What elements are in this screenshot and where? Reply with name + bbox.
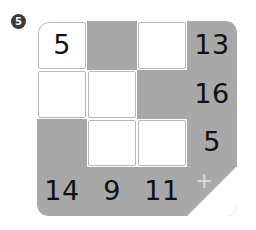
plus-icon: + xyxy=(195,170,214,192)
cell-value: 5 xyxy=(203,128,221,155)
puzzle-root: 5 51316514911+ xyxy=(0,0,256,230)
addition-grid: 51316514911+ xyxy=(37,21,237,216)
grid-cell-r4c2: 9 xyxy=(87,167,137,216)
grid-cell-r3c3[interactable] xyxy=(138,120,186,167)
grid-cell-r1c2[interactable] xyxy=(87,21,137,70)
grid-cell-r3c1[interactable] xyxy=(37,119,87,168)
grid-operator-cell: + xyxy=(187,167,237,216)
grid-cell-r1c4: 13 xyxy=(187,21,237,70)
grid-cell-r3c2[interactable] xyxy=(88,120,136,167)
grid-cell-r2c2[interactable] xyxy=(88,71,136,118)
cell-value: 9 xyxy=(103,177,121,204)
grid-cell-r3c4: 5 xyxy=(187,119,237,168)
problem-number-badge: 5 xyxy=(11,14,26,29)
cell-value: 5 xyxy=(53,31,71,58)
grid-cell-r4c3: 11 xyxy=(137,167,187,216)
cell-value: 16 xyxy=(194,80,229,107)
grid-cell-r2c3[interactable] xyxy=(137,70,187,119)
cell-value: 11 xyxy=(144,177,179,204)
grid-cell-r1c1: 5 xyxy=(38,22,86,69)
cell-value: 14 xyxy=(44,177,79,204)
grid-cell-r2c4: 16 xyxy=(187,70,237,119)
cell-value: 13 xyxy=(194,31,229,58)
grid-cell-r1c3[interactable] xyxy=(138,22,186,69)
grid-container: 51316514911+ xyxy=(37,21,237,216)
grid-cell-r2c1[interactable] xyxy=(38,71,86,118)
grid-cell-r4c1: 14 xyxy=(37,167,87,216)
